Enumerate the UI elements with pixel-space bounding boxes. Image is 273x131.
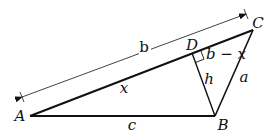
label-a: a <box>240 68 249 86</box>
label-c: c <box>128 116 137 131</box>
label-x: x <box>120 79 129 97</box>
vertex-label-b: B <box>216 116 228 131</box>
label-b: b <box>139 38 149 56</box>
label-h: h <box>204 70 214 88</box>
triangle-diagram: b x b − x h a c A B C D <box>0 0 273 131</box>
vertex-label-c: C <box>252 14 264 32</box>
vertex-label-a: A <box>13 107 26 125</box>
vertex-label-d: D <box>185 36 198 54</box>
label-b-minus-x: b − x <box>206 45 247 63</box>
